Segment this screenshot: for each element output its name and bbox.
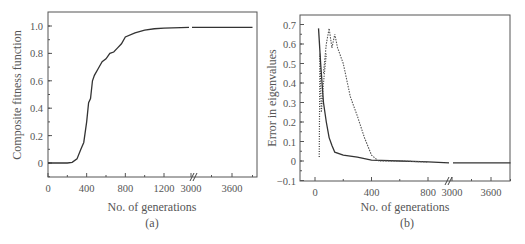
y-axis-title-a: Composite fitness function — [10, 30, 24, 159]
error-solid-curve — [319, 28, 511, 163]
y-tick-label: 0.8 — [30, 48, 43, 59]
x-axis-ticks-a: 0400800120030003600 — [45, 173, 252, 194]
x-tick-label: 400 — [364, 187, 380, 198]
fitness-curve — [48, 27, 253, 163]
x-tick-label: 400 — [79, 183, 95, 194]
y-tick-label: 0.2 — [30, 131, 43, 142]
x-tick-label: 3600 — [481, 187, 502, 198]
chart-b: −0.100.10.20.30.40.50.60.7 0400800300036… — [265, 15, 511, 230]
x-tick-label: 0 — [45, 183, 50, 194]
y-tick-label: 0.6 — [283, 39, 296, 50]
y-tick-label: 0.4 — [283, 78, 297, 89]
y-tick-label: 0.5 — [283, 59, 296, 70]
plot-frame-b — [300, 15, 510, 181]
x-axis-title-a: No. of generations — [108, 200, 197, 214]
y-tick-label: 0.7 — [283, 20, 296, 31]
error-dotted-curve-1 — [319, 54, 326, 157]
x-axis-title-b: No. of generations — [361, 200, 450, 214]
y-tick-label: 0.6 — [30, 76, 43, 87]
y-axis-title-b: Error in eigenvalues — [265, 49, 279, 147]
x-tick-label: 3000 — [181, 183, 202, 194]
y-tick-label: 0 — [291, 156, 296, 167]
panel-label-a: (a) — [145, 216, 158, 230]
x-tick-label: 1200 — [154, 183, 175, 194]
y-tick-label: 0 — [38, 158, 43, 169]
x-tick-label: 800 — [420, 187, 436, 198]
panel-label-b: (b) — [400, 216, 414, 230]
y-tick-label: 0.1 — [283, 137, 296, 148]
x-tick-label: 3600 — [222, 183, 243, 194]
y-tick-label: 0.2 — [283, 117, 296, 128]
x-axis-ticks-b: 040080030003600 — [312, 177, 510, 198]
x-tick-label: 0 — [312, 187, 317, 198]
x-tick-label: 3000 — [442, 187, 463, 198]
error-dotted-curve-2 — [323, 28, 428, 162]
x-tick-label: 800 — [117, 183, 133, 194]
y-tick-label: 0.4 — [30, 103, 44, 114]
figure: 00.20.40.60.81.0 0400800120030003600 Com… — [0, 0, 525, 244]
chart-a: 00.20.40.60.81.0 0400800120030003600 Com… — [10, 12, 257, 230]
y-tick-label: 0.3 — [283, 98, 296, 109]
y-tick-label: −0.1 — [277, 176, 296, 187]
y-axis-ticks-a: 00.20.40.60.81.0 — [30, 21, 52, 177]
y-tick-label: 1.0 — [30, 21, 43, 32]
